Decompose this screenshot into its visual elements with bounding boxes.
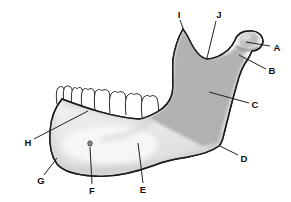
tooth [94, 90, 111, 113]
label-line-I [180, 20, 183, 28]
label-line-J [207, 21, 216, 58]
label-letter-I: I [178, 9, 181, 20]
label-letter-D: D [241, 153, 248, 164]
body-highlight [62, 126, 158, 164]
anatomy-diagram: ABCDEFGHIJ [0, 0, 291, 202]
label-letter-E: E [140, 184, 146, 195]
label-letter-G: G [37, 175, 44, 186]
mandible-figure: ABCDEFGHIJ [0, 0, 291, 202]
label-line-G [44, 158, 57, 175]
label-line-D [220, 146, 238, 155]
label-letter-F: F [89, 185, 95, 196]
label-letter-C: C [252, 99, 259, 110]
label-letter-J: J [216, 9, 221, 20]
tooth [125, 94, 143, 117]
label-letter-B: B [269, 65, 276, 76]
mental-foramen-dot [88, 141, 92, 146]
tooth [109, 92, 127, 115]
label-letter-A: A [274, 42, 281, 53]
label-letter-H: H [25, 137, 32, 148]
